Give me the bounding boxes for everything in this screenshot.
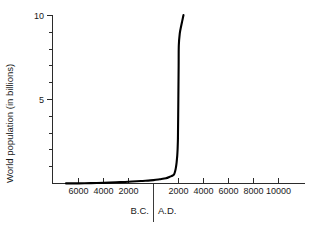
- chart-canvas: World population (in billions) 10 5 6000: [0, 0, 329, 229]
- x-tick-label-ad-2000: 2000: [168, 186, 188, 196]
- y-tick-label-10: 10: [34, 11, 44, 21]
- era-label-bc: B.C.: [131, 205, 149, 216]
- x-tick-label-bc-6000: 6000: [68, 186, 88, 196]
- population-curve: [66, 15, 184, 183]
- y-axis-title: World population (in billions): [4, 64, 15, 183]
- era-label-ad: A.D.: [158, 205, 176, 216]
- x-tick-label-ad-10000: 10000: [266, 186, 291, 196]
- x-tick-label-ad-6000: 6000: [218, 186, 238, 196]
- x-tick-label-bc-2000: 2000: [118, 186, 138, 196]
- x-tick-label-bc-4000: 4000: [93, 186, 113, 196]
- world-population-chart: World population (in billions) 10 5 6000: [0, 0, 329, 229]
- x-tick-label-ad-8000: 8000: [243, 186, 263, 196]
- y-tick-label-5: 5: [39, 95, 44, 105]
- x-tick-label-ad-4000: 4000: [193, 186, 213, 196]
